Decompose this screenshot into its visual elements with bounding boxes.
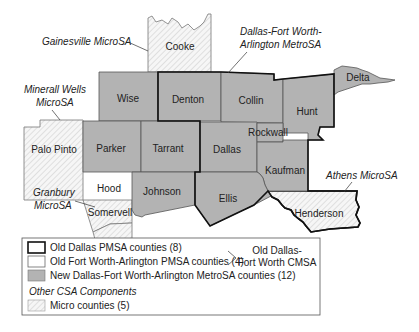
legend-swatch-gray-fill (28, 270, 45, 281)
legend-bracket-label-line1: Old Dallas- (252, 245, 301, 256)
legend-item-micro: Micro counties (5) (50, 300, 129, 311)
legend-bracket-label-line2: Fort Worth CMSA (238, 257, 317, 268)
label-collin: Collin (238, 95, 263, 106)
label-somervell: Somervell (88, 207, 132, 218)
label-ellis: Ellis (219, 193, 237, 204)
label-dallas: Dallas (213, 144, 241, 155)
label-rockwall: Rockwall (248, 127, 288, 138)
label-wise: Wise (117, 93, 140, 104)
callout-mineral-wells-line2: MicroSA (36, 97, 74, 108)
label-delta: Delta (346, 72, 370, 83)
legend: Old Dallas PMSA counties (8) Old Fort Wo… (22, 238, 320, 315)
label-parker: Parker (96, 143, 126, 154)
callout-athens: Athens MicroSA (325, 170, 398, 181)
label-johnson: Johnson (143, 186, 181, 197)
dfw-csa-map: Cooke Wise Denton Collin Hunt Delta Palo… (0, 0, 419, 332)
callout-leader-mineral-wells (52, 110, 60, 120)
legend-swatch-thin-outline (28, 256, 45, 267)
label-cooke: Cooke (166, 41, 195, 52)
legend-swatch-thick-outline (28, 242, 45, 253)
legend-swatch-hatched (28, 300, 45, 311)
label-hood: Hood (97, 183, 121, 194)
legend-item-old-dallas: Old Dallas PMSA counties (8) (50, 242, 182, 253)
callout-dfw-line2: Arlington MetroSA (239, 39, 321, 50)
label-denton: Denton (172, 94, 204, 105)
label-henderson: Henderson (295, 208, 344, 219)
label-palo-pinto: Palo Pinto (31, 144, 77, 155)
callout-leader-dfw (228, 52, 247, 73)
callout-mineral-wells-line1: Minerall Wells (24, 84, 86, 95)
callout-dfw-line1: Dallas-Fort Worth- (240, 26, 322, 37)
label-hunt: Hunt (296, 106, 317, 117)
callout-gainesville: Gainesville MicroSA (42, 36, 132, 47)
label-tarrant: Tarrant (152, 143, 183, 154)
callout-granbury-line1: Granbury (33, 187, 76, 198)
legend-item-new-metro: New Dallas-Fort Worth-Arlington MetroSA … (50, 270, 295, 281)
label-kaufman: Kaufman (265, 165, 305, 176)
legend-item-old-fort-worth: Old Fort Worth-Arlington PMSA counties (… (50, 256, 244, 267)
legend-section-heading: Other CSA Components (29, 286, 136, 297)
callout-granbury-line2: MicroSA (34, 200, 72, 211)
